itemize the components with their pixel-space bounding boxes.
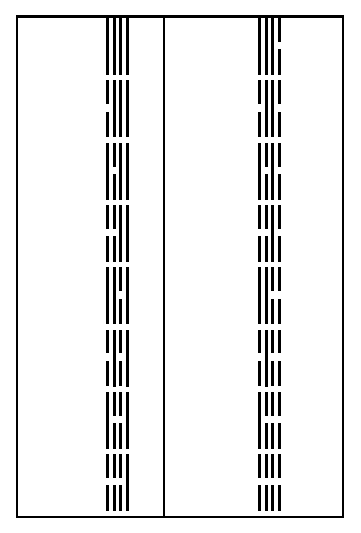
- tetragram-11: [258, 205, 282, 262]
- broken-line: [278, 205, 281, 262]
- tetragram-8: [258, 18, 282, 75]
- solid-line: [119, 80, 122, 137]
- solid-line: [126, 330, 129, 387]
- tetragram-3: [106, 205, 130, 262]
- solid-line: [119, 143, 122, 200]
- tetragram-12: [258, 267, 282, 324]
- solid-line: [126, 80, 129, 137]
- broken-line: [271, 392, 274, 449]
- broken-line: [113, 454, 116, 511]
- solid-line: [271, 143, 274, 200]
- broken-line: [113, 205, 116, 262]
- diagram-frame: [16, 15, 344, 518]
- tetragram-14: [258, 392, 282, 449]
- solid-line: [106, 143, 109, 200]
- solid-line: [113, 330, 116, 387]
- broken-line: [258, 330, 261, 387]
- broken-line: [113, 392, 116, 449]
- solid-line: [126, 392, 129, 449]
- solid-line: [271, 80, 274, 137]
- broken-line: [265, 205, 268, 262]
- solid-line: [265, 80, 268, 137]
- solid-line: [106, 18, 109, 75]
- broken-line: [265, 143, 268, 200]
- broken-line: [106, 454, 109, 511]
- broken-line: [265, 392, 268, 449]
- tetragram-2: [106, 143, 130, 200]
- broken-line: [258, 454, 261, 511]
- solid-line: [113, 267, 116, 324]
- solid-line: [126, 18, 129, 75]
- broken-line: [265, 454, 268, 511]
- solid-line: [271, 205, 274, 262]
- solid-line: [126, 143, 129, 200]
- broken-line: [278, 392, 281, 449]
- tetragram-6: [106, 392, 130, 449]
- broken-line: [278, 267, 281, 324]
- tetragram-0: [106, 18, 130, 75]
- solid-line: [119, 205, 122, 262]
- solid-line: [271, 18, 274, 75]
- solid-line: [106, 267, 109, 324]
- tetragram-4: [106, 267, 130, 324]
- broken-line: [106, 330, 109, 387]
- solid-line: [126, 205, 129, 262]
- solid-line: [265, 330, 268, 387]
- solid-line: [265, 18, 268, 75]
- right-column: [258, 18, 282, 513]
- solid-line: [119, 18, 122, 75]
- solid-line: [258, 267, 261, 324]
- broken-line: [258, 205, 261, 262]
- solid-line: [113, 18, 116, 75]
- tetragram-9: [258, 80, 282, 137]
- broken-line: [119, 267, 122, 324]
- solid-line: [258, 392, 261, 449]
- broken-line: [119, 392, 122, 449]
- broken-line: [113, 143, 116, 200]
- broken-line: [258, 80, 261, 137]
- solid-line: [258, 18, 261, 75]
- tetragram-13: [258, 330, 282, 387]
- broken-line: [271, 267, 274, 324]
- broken-line: [278, 454, 281, 511]
- broken-line: [278, 18, 281, 75]
- tetragram-1: [106, 80, 130, 137]
- broken-line: [278, 143, 281, 200]
- tetragram-7: [106, 454, 130, 511]
- broken-line: [278, 80, 281, 137]
- tetragram-10: [258, 143, 282, 200]
- broken-line: [271, 454, 274, 511]
- broken-line: [278, 330, 281, 387]
- left-column: [106, 18, 130, 513]
- broken-line: [106, 205, 109, 262]
- column-divider: [163, 15, 165, 516]
- broken-line: [119, 330, 122, 387]
- solid-line: [265, 267, 268, 324]
- tetragram-5: [106, 330, 130, 387]
- broken-line: [119, 454, 122, 511]
- solid-line: [258, 143, 261, 200]
- broken-line: [271, 330, 274, 387]
- tetragram-15: [258, 454, 282, 511]
- solid-line: [106, 392, 109, 449]
- solid-line: [113, 80, 116, 137]
- solid-line: [126, 267, 129, 324]
- broken-line: [106, 80, 109, 137]
- solid-line: [126, 454, 129, 511]
